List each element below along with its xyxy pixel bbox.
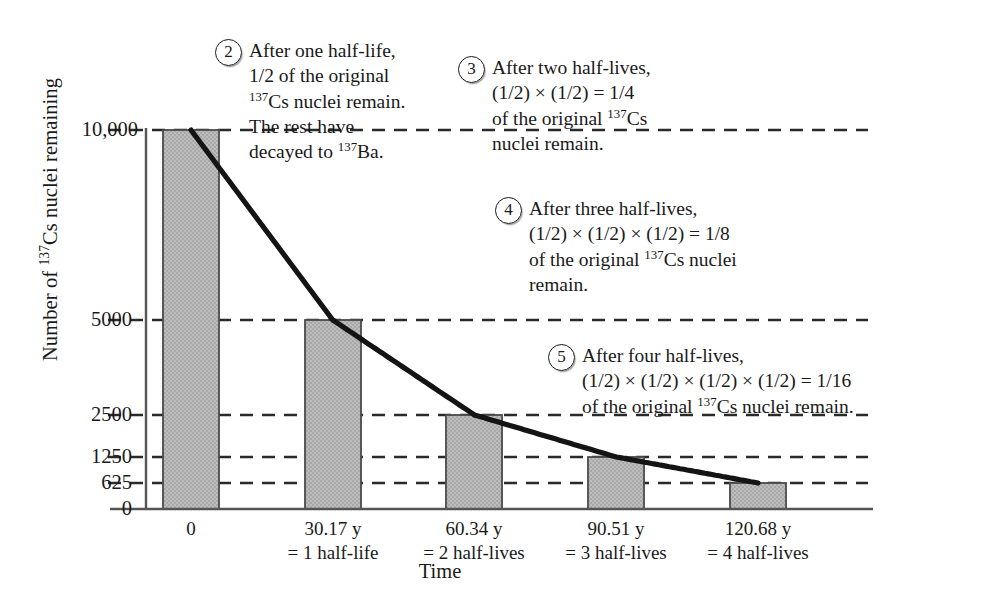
isotope-mass-number: 137 (697, 395, 716, 409)
bar (305, 320, 361, 509)
x-tick-value: 30.17 y (305, 518, 362, 539)
annotation-line: of the original 137Cs nuclei remain. (582, 394, 854, 419)
isotope-mass-number: 137 (644, 248, 663, 262)
bar (163, 130, 219, 509)
annotation-line: decayed to 137Ba. (249, 139, 405, 164)
y-tick-label: 1250 (0, 446, 132, 467)
isotope-mass-number: 137 (607, 107, 626, 121)
annotation-line: 137Cs nuclei remain. (249, 89, 405, 114)
y-tick-label: 625 (0, 472, 132, 493)
bar (730, 483, 786, 509)
isotope-mass-number: 137 (338, 141, 357, 155)
annotation-line: 1/2 of the original (249, 63, 405, 88)
annotation-callout-5: 5After four half-lives,(1/2) × (1/2) × (… (548, 343, 854, 419)
bar (446, 415, 502, 509)
x-tick-value: 60.34 y (446, 518, 503, 539)
annotation-number-badge: 3 (458, 56, 485, 83)
annotation-number-badge: 5 (548, 344, 575, 371)
isotope-mass-number: 137 (37, 245, 52, 266)
y-tick-label: 2500 (0, 404, 132, 425)
annotation-line: After four half-lives, (582, 343, 854, 368)
bar (588, 457, 644, 509)
x-tick-value: 90.51 y (588, 518, 645, 539)
decay-chart-figure: 10,0005000250012506250 030.17 y= 1 half-… (0, 0, 992, 602)
x-tick-label: 120.68 y= 4 half-lives (668, 517, 848, 565)
annotation-callout-2: 2After one half-life,1/2 of the original… (215, 38, 405, 165)
y-axis-title: Number of 137Cs nuclei remaining (39, 30, 62, 410)
annotation-number-badge: 2 (215, 39, 242, 66)
annotation-line: (1/2) × (1/2) × (1/2) × (1/2) = 1/16 (582, 368, 854, 393)
x-axis-title: Time (0, 560, 880, 583)
annotation-callout-3: 3After two half-lives,(1/2) × (1/2) = 1/… (458, 55, 651, 156)
annotation-line: (1/2) × (1/2) × (1/2) = 1/8 (529, 221, 737, 246)
annotation-line: of the original 137Cs (492, 106, 651, 131)
x-tick-value: 0 (186, 518, 196, 539)
annotation-callout-4: 4After three half-lives,(1/2) × (1/2) × … (495, 196, 737, 297)
x-tick-value: 120.68 y (725, 518, 792, 539)
y-tick-label: 0 (0, 498, 132, 519)
annotation-line: (1/2) × (1/2) = 1/4 (492, 80, 651, 105)
annotation-line: remain. (529, 272, 737, 297)
annotation-line: The rest have (249, 114, 405, 139)
annotation-line: of the original 137Cs nuclei (529, 247, 737, 272)
annotation-line: After three half-lives, (529, 196, 737, 221)
annotation-number-badge: 4 (495, 197, 522, 224)
annotation-line: After one half-life, (249, 38, 405, 63)
y-tick-label: 10,000 (0, 119, 138, 140)
y-tick-label: 5000 (0, 309, 132, 330)
isotope-mass-number: 137 (249, 90, 268, 104)
annotation-line: nuclei remain. (492, 131, 651, 156)
annotation-line: After two half-lives, (492, 55, 651, 80)
